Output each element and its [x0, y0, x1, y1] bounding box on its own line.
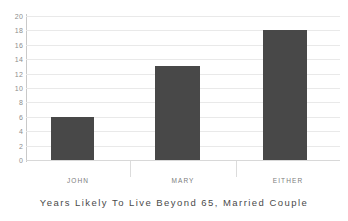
plot-area — [26, 16, 340, 160]
y-tick-12: 12 — [1, 71, 23, 78]
bar-either — [263, 30, 307, 160]
y-tick-6: 6 — [1, 114, 23, 121]
bar-john — [51, 117, 94, 160]
y-tick-16: 16 — [1, 42, 23, 49]
y-tick-0: 0 — [1, 157, 23, 164]
y-tick-14: 14 — [1, 56, 23, 63]
gridline-0-baseline — [26, 160, 340, 161]
category-label-mary: MARY — [130, 178, 236, 185]
chart-caption: Years Likely To Live Beyond 65, Married … — [0, 198, 348, 208]
category-separator-1 — [130, 161, 131, 177]
y-tick-2: 2 — [1, 143, 23, 150]
bar-chart: 20 18 16 14 12 10 8 6 4 2 0 JOHN MARY EI… — [0, 0, 348, 221]
gridline-20 — [26, 16, 340, 17]
category-label-either: EITHER — [236, 178, 340, 185]
y-axis-tick-labels: 20 18 16 14 12 10 8 6 4 2 0 — [0, 0, 23, 221]
y-tick-18: 18 — [1, 27, 23, 34]
category-label-john: JOHN — [26, 178, 130, 185]
y-tick-4: 4 — [1, 128, 23, 135]
y-tick-10: 10 — [1, 85, 23, 92]
category-separator-2 — [236, 161, 237, 177]
y-tick-8: 8 — [1, 99, 23, 106]
bar-mary — [155, 66, 200, 160]
y-tick-20: 20 — [1, 13, 23, 20]
